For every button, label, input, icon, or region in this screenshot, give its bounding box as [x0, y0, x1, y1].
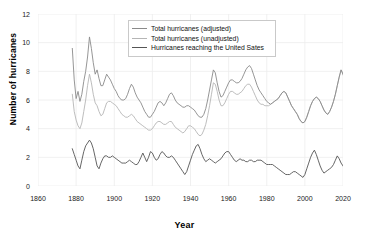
legend-line-swatch-unadjusted	[132, 38, 147, 39]
y-axis-title: Number of hurricanes	[8, 19, 18, 139]
x-tick-1960: 1960	[214, 195, 244, 202]
y-tick-12: 12	[4, 11, 30, 18]
legend-line-swatch-adjusted	[132, 28, 147, 29]
chart-legend: Total hurricanes (adjusted) Total hurric…	[128, 20, 276, 57]
y-tick-0: 0	[4, 183, 30, 190]
x-axis-title: Year	[0, 220, 369, 230]
x-tick-2000: 2000	[290, 195, 320, 202]
legend-item-adjusted: Total hurricanes (adjusted)	[132, 24, 271, 34]
legend-label-us-landfall: Hurricanes reaching the United Sates	[151, 43, 264, 53]
legend-item-unadjusted: Total hurricanes (unadjusted)	[132, 34, 271, 44]
legend-line-swatch-us-landfall	[132, 47, 147, 48]
x-tick-1940: 1940	[176, 195, 206, 202]
x-tick-1860: 1860	[23, 195, 53, 202]
y-tick-10: 10	[4, 39, 30, 46]
legend-label-adjusted: Total hurricanes (adjusted)	[151, 24, 231, 34]
y-tick-2: 2	[4, 154, 30, 161]
x-tick-1980: 1980	[252, 195, 282, 202]
x-tick-1920: 1920	[137, 195, 167, 202]
y-tick-6: 6	[4, 97, 30, 104]
y-tick-8: 8	[4, 68, 30, 75]
x-tick-1880: 1880	[61, 195, 91, 202]
hurricane-line-chart: Number of hurricanes 024681012 186018801…	[0, 0, 369, 239]
y-tick-4: 4	[4, 125, 30, 132]
x-tick-2020: 2020	[328, 195, 358, 202]
x-tick-1900: 1900	[99, 195, 129, 202]
legend-item-us-landfall: Hurricanes reaching the United Sates	[132, 43, 271, 53]
legend-label-unadjusted: Total hurricanes (unadjusted)	[151, 34, 239, 44]
